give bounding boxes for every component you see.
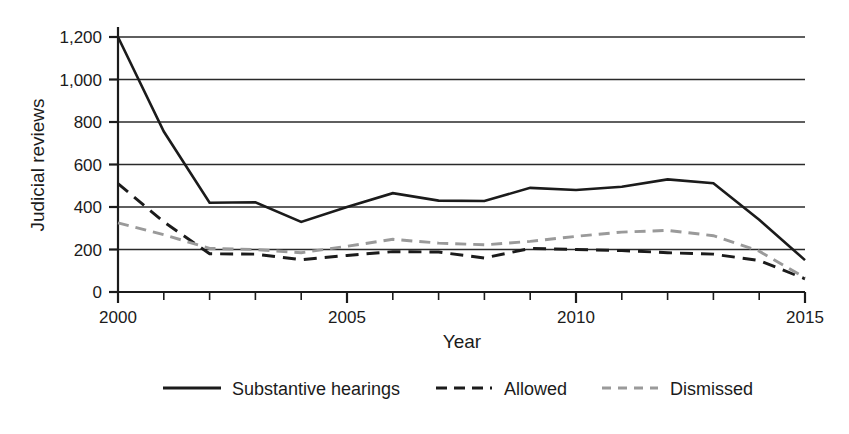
x-tick-label-2000: 2000 <box>99 308 137 327</box>
legend-label-dismissed: Dismissed <box>670 379 753 399</box>
y-tick-label-400: 400 <box>74 198 102 217</box>
y-axis-title: Judicial reviews <box>27 98 48 231</box>
y-tick-label-800: 800 <box>74 113 102 132</box>
x-tick-label-2005: 2005 <box>328 308 366 327</box>
y-tick-label-200: 200 <box>74 241 102 260</box>
y-tick-label-600: 600 <box>74 156 102 175</box>
legend-label-substantive-hearings: Substantive hearings <box>232 379 400 399</box>
judicial-reviews-line-chart: 02004006008001,0001,200 2000200520102015… <box>0 0 849 434</box>
chart-background <box>0 0 849 434</box>
x-axis-title: Year <box>443 331 482 352</box>
y-tick-label-0: 0 <box>93 283 102 302</box>
legend-label-allowed: Allowed <box>504 379 567 399</box>
y-tick-label-1,000: 1,000 <box>59 71 102 90</box>
x-tick-label-2015: 2015 <box>786 308 824 327</box>
chart-figure: 02004006008001,0001,200 2000200520102015… <box>0 0 849 434</box>
x-tick-label-2010: 2010 <box>557 308 595 327</box>
y-tick-label-1,200: 1,200 <box>59 28 102 47</box>
